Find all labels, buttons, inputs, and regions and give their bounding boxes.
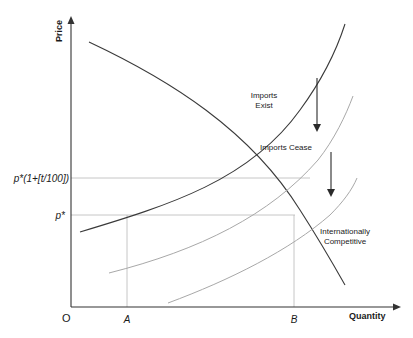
guide-lines [71,178,310,307]
label-imports-exist-2: Exist [255,101,273,110]
axes [68,16,402,311]
y-tick-price-with-tariff: p*(1+[t/100]) [13,173,69,184]
x-axis-arrow-icon [393,304,401,311]
y-tick-world-price: p* [55,210,67,221]
x-tick-a: A [123,314,131,325]
y-axis-arrow-icon [68,16,75,24]
y-axis-label: Price [54,20,64,42]
label-internationally-competitive-2: Competitive [324,237,367,246]
supply-curve-imports-cease [109,96,353,273]
label-imports-cease: Imports Cease [260,143,313,152]
x-tick-b: B [291,314,298,325]
supply-curve-imports-exist [80,24,345,232]
label-internationally-competitive-1: Internationally [320,227,370,236]
x-axis-label: Quantity [349,311,386,321]
label-imports-exist-1: Imports [251,91,278,100]
supply-demand-diagram: Price Quantity O p*(1+[t/100]) p* A B Im… [0,0,413,338]
origin-label: O [62,312,71,324]
